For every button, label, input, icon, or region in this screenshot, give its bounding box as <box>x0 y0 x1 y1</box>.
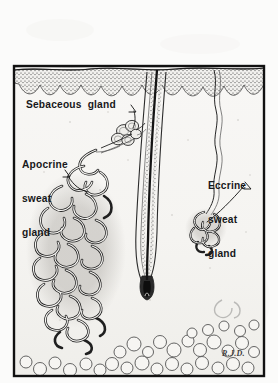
anatomy-figure: Sebaceous gland Apocrine sweat gland Ecc… <box>0 0 278 383</box>
illustration-plate <box>0 0 278 383</box>
artist-signature: R.J.D. <box>222 349 245 358</box>
